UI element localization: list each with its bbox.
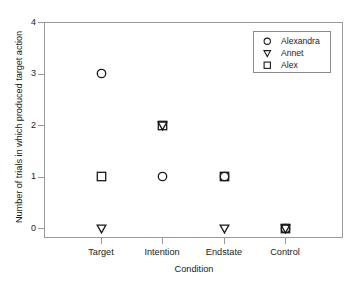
y-tick-label: 3: [24, 69, 36, 78]
data-point-annet-target: [96, 223, 107, 234]
scatter-plot-figure: Number of trials in which produced targe…: [0, 0, 357, 287]
x-tick-label: Target: [66, 247, 136, 257]
data-point-annet-endstate: [219, 223, 230, 234]
y-tick-mark: [38, 22, 44, 23]
legend-item-annet: Annet: [254, 47, 330, 59]
y-tick-mark: [38, 177, 44, 178]
y-tick-mark: [38, 125, 44, 126]
x-tick-mark: [285, 238, 286, 244]
y-tick-label: 4: [24, 18, 36, 27]
y-tick-mark: [38, 228, 44, 229]
data-point-alexandra-intention: [157, 171, 168, 182]
x-axis-label: Condition: [44, 264, 344, 274]
data-point-alexandra-control: [280, 223, 291, 234]
data-point-annet-intention: [157, 120, 168, 131]
x-tick-mark: [162, 238, 163, 244]
legend-item-alexandra: Alexandra: [254, 35, 330, 47]
x-tick-label: Intention: [127, 247, 197, 257]
y-tick-mark: [38, 74, 44, 75]
x-tick-mark: [101, 238, 102, 244]
legend-label: Annet: [274, 48, 303, 59]
legend-label: Alexandra: [274, 36, 320, 47]
triangle-down-marker-icon: [261, 48, 274, 59]
data-point-alex-target: [96, 171, 107, 182]
square-marker-icon: [261, 60, 274, 71]
y-tick-label: 2: [24, 121, 36, 130]
x-tick-label: Control: [250, 247, 320, 257]
x-tick-label: Endstate: [189, 247, 259, 257]
data-point-alexandra-endstate: [219, 171, 230, 182]
x-tick-mark: [224, 238, 225, 244]
data-point-alexandra-target: [96, 68, 107, 79]
legend: AlexandraAnnetAlex: [253, 31, 331, 73]
legend-item-alex: Alex: [254, 59, 330, 71]
y-tick-label: 1: [24, 172, 36, 181]
y-tick-label: 0: [24, 224, 36, 233]
legend-label: Alex: [274, 60, 298, 71]
circle-marker-icon: [261, 36, 274, 47]
